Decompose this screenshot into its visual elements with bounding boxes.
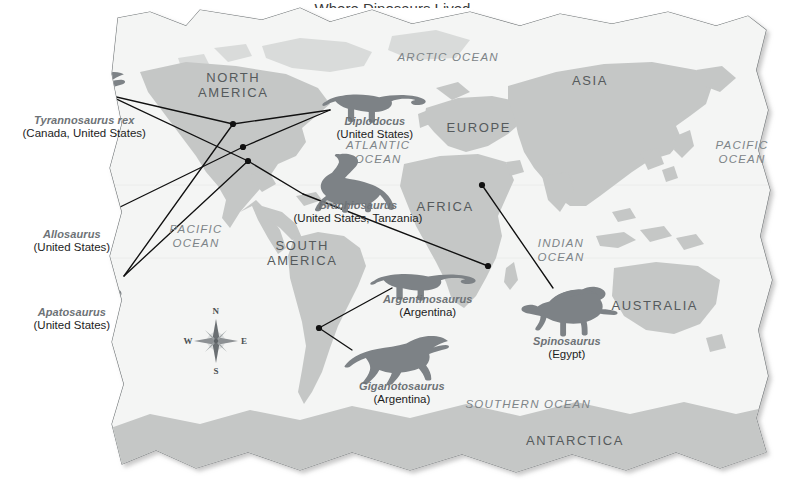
us-marker[interactable] xyxy=(245,158,251,164)
canada-marker[interactable] xyxy=(230,121,236,127)
compass-north-label: N xyxy=(213,306,220,316)
compass-east-label: E xyxy=(241,336,247,346)
dinosaur-world-map: Where Dinosaurs Lived xyxy=(0,0,785,489)
dinosaur-silhouette-tyrannosaurus-rex xyxy=(21,72,125,122)
dinosaur-silhouette-apatosaurus xyxy=(11,282,121,315)
map-geography xyxy=(11,5,780,485)
egypt-marker[interactable] xyxy=(479,182,485,188)
compass-south-label: S xyxy=(214,366,219,376)
silhouette-shape xyxy=(11,282,121,315)
dinosaur-silhouette-allosaurus xyxy=(22,193,116,235)
silhouette-shape xyxy=(22,193,116,235)
argentina-marker[interactable] xyxy=(316,325,322,331)
silhouette-shape xyxy=(21,72,125,122)
compass-west-label: W xyxy=(184,336,193,346)
map-canvas xyxy=(0,0,785,489)
western-us-marker[interactable] xyxy=(240,144,246,150)
tanzania-marker[interactable] xyxy=(485,263,491,269)
